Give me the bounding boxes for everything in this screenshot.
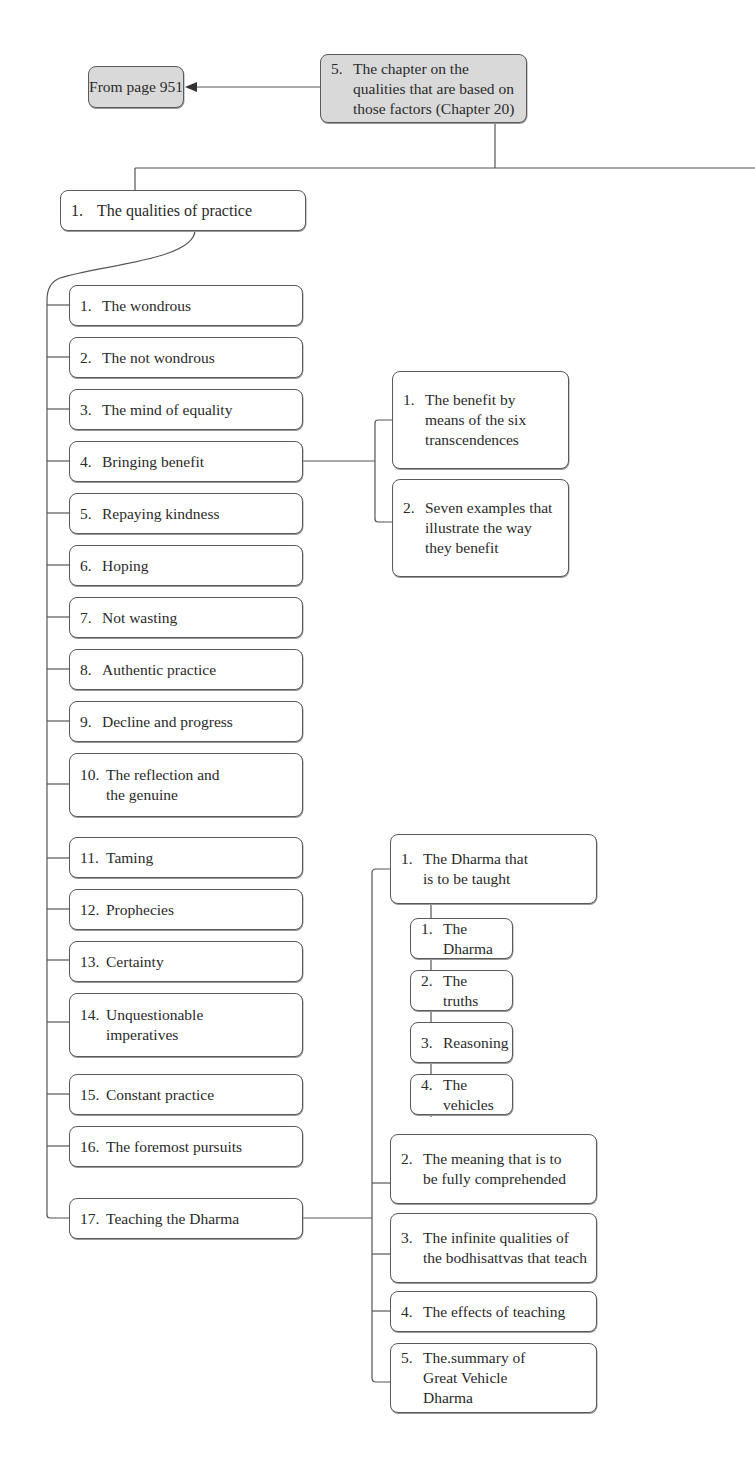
node-number: 16. bbox=[80, 1137, 106, 1157]
dharma-child[interactable]: 2.The truths bbox=[410, 970, 513, 1011]
node-label: Not wasting bbox=[102, 608, 294, 628]
node-label: Repaying kindness bbox=[102, 504, 294, 524]
node-number: 1. bbox=[71, 201, 97, 221]
node-number: 3. bbox=[80, 400, 102, 420]
continuation-box[interactable]: From page 951 bbox=[88, 66, 184, 108]
node-number: 2. bbox=[401, 1149, 423, 1169]
node-number: 13. bbox=[80, 952, 106, 972]
node-label: The not wondrous bbox=[102, 348, 294, 368]
node-label: The truths bbox=[443, 971, 504, 1011]
node-label: The benefit by means of the six transcen… bbox=[425, 390, 560, 450]
node-label: The reflection and the genuine bbox=[106, 765, 294, 805]
benefit-child[interactable]: 1.The benefit by means of the six transc… bbox=[392, 371, 569, 469]
teaching-child[interactable]: 1.The Dharma that is to be taught bbox=[390, 834, 597, 904]
node-number: 3. bbox=[421, 1033, 443, 1053]
node-label: Teaching the Dharma bbox=[106, 1209, 294, 1229]
node-number: 1. bbox=[421, 919, 443, 939]
node-number: 15. bbox=[80, 1085, 106, 1105]
node-number: 8. bbox=[80, 660, 102, 680]
dharma-child[interactable]: 3.Reasoning bbox=[410, 1022, 513, 1063]
node-label: The qualities of practice bbox=[97, 201, 297, 221]
list-item[interactable]: 17.Teaching the Dharma bbox=[69, 1198, 303, 1239]
node-label: The vehicles bbox=[443, 1075, 504, 1115]
list-item[interactable]: 16.The foremost pursuits bbox=[69, 1126, 303, 1167]
node-label: Taming bbox=[106, 848, 294, 868]
node-label: The meaning that is to be fully comprehe… bbox=[423, 1149, 588, 1189]
node-number: 7. bbox=[80, 608, 102, 628]
node-number: 4. bbox=[80, 452, 102, 472]
list-item[interactable]: 14.Unquestionable imperatives bbox=[69, 993, 303, 1057]
node-label: Constant practice bbox=[106, 1085, 294, 1105]
node-number: 2. bbox=[80, 348, 102, 368]
node-label: Hoping bbox=[102, 556, 294, 576]
benefit-child[interactable]: 2.Seven examples that illustrate the way… bbox=[392, 479, 569, 577]
node-number: 1. bbox=[403, 390, 425, 410]
dharma-child[interactable]: 4.The vehicles bbox=[410, 1074, 513, 1115]
list-item[interactable]: 7.Not wasting bbox=[69, 597, 303, 638]
continuation-label: From page 951 bbox=[89, 77, 183, 97]
node-label: Authentic practice bbox=[102, 660, 294, 680]
node-label: The mind of equality bbox=[102, 400, 294, 420]
node-label: The Dharma that is to be taught bbox=[423, 849, 588, 889]
node-label: Bringing benefit bbox=[102, 452, 294, 472]
node-label: Reasoning bbox=[443, 1033, 508, 1053]
node-number: 6. bbox=[80, 556, 102, 576]
list-item[interactable]: 8.Authentic practice bbox=[69, 649, 303, 690]
list-item[interactable]: 9.Decline and progress bbox=[69, 701, 303, 742]
node-number: 4. bbox=[401, 1302, 423, 1322]
list-item[interactable]: 12.Prophecies bbox=[69, 889, 303, 930]
node-label: The foremost pursuits bbox=[106, 1137, 294, 1157]
node-label: Certainty bbox=[106, 952, 294, 972]
node-number: 14. bbox=[80, 1005, 106, 1025]
node-label: Decline and progress bbox=[102, 712, 294, 732]
node-number: 1. bbox=[80, 296, 102, 316]
node-number: 11. bbox=[80, 848, 106, 868]
node-number: 2. bbox=[403, 498, 425, 518]
list-item[interactable]: 1.The wondrous bbox=[69, 285, 303, 326]
node-label: The effects of teaching bbox=[423, 1302, 588, 1322]
node-number: 2. bbox=[421, 971, 443, 991]
list-item[interactable]: 4.Bringing benefit bbox=[69, 441, 303, 482]
node-number: 3. bbox=[401, 1228, 423, 1248]
node-label: The infinite qualities of the bodhisattv… bbox=[423, 1228, 588, 1268]
node-number: 5. bbox=[401, 1348, 423, 1368]
node-label: The wondrous bbox=[102, 296, 294, 316]
level1-node[interactable]: 1. The qualities of practice bbox=[60, 190, 306, 231]
node-label: The chapter on the qualities that are ba… bbox=[353, 59, 518, 119]
list-item[interactable]: 2.The not wondrous bbox=[69, 337, 303, 378]
teaching-child[interactable]: 3.The infinite qualities of the bodhisat… bbox=[390, 1213, 597, 1283]
list-item[interactable]: 6.Hoping bbox=[69, 545, 303, 586]
node-number: 17. bbox=[80, 1209, 106, 1229]
list-item[interactable]: 15.Constant practice bbox=[69, 1074, 303, 1115]
node-label: Seven examples that illustrate the way t… bbox=[425, 498, 560, 558]
node-label: Unquestionable imperatives bbox=[106, 1005, 294, 1045]
node-number: 1. bbox=[401, 849, 423, 869]
list-item[interactable]: 11.Taming bbox=[69, 837, 303, 878]
list-item[interactable]: 5.Repaying kindness bbox=[69, 493, 303, 534]
list-item[interactable]: 3.The mind of equality bbox=[69, 389, 303, 430]
list-item[interactable]: 10.The reflection and the genuine bbox=[69, 753, 303, 817]
node-number: 5. bbox=[80, 504, 102, 524]
node-number: 10. bbox=[80, 765, 106, 785]
list-item[interactable]: 13.Certainty bbox=[69, 941, 303, 982]
node-label: Prophecies bbox=[106, 900, 294, 920]
root-node[interactable]: 5. The chapter on the qualities that are… bbox=[320, 54, 527, 123]
node-number: 9. bbox=[80, 712, 102, 732]
teaching-child[interactable]: 4.The effects of teaching bbox=[390, 1291, 597, 1332]
dharma-child[interactable]: 1.The Dharma bbox=[410, 918, 513, 959]
node-number: 5. bbox=[331, 59, 353, 79]
teaching-child[interactable]: 5.The.summary of Great Vehicle Dharma bbox=[390, 1343, 597, 1413]
node-label: The Dharma bbox=[443, 919, 504, 959]
node-number: 12. bbox=[80, 900, 106, 920]
node-label: The.summary of Great Vehicle Dharma bbox=[423, 1348, 588, 1408]
node-number: 4. bbox=[421, 1075, 443, 1095]
teaching-child[interactable]: 2.The meaning that is to be fully compre… bbox=[390, 1134, 597, 1204]
